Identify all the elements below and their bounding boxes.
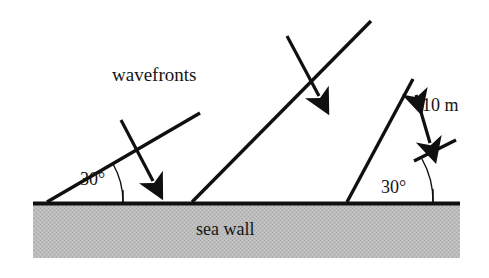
angle-arc-right xyxy=(422,159,433,202)
wavefront-lines xyxy=(47,21,456,202)
propagation-arrows xyxy=(121,36,319,181)
angle-label-left: 30° xyxy=(80,169,105,190)
wavefronts-label: wavefronts xyxy=(112,64,196,86)
angle-label-right: 30° xyxy=(381,177,406,198)
propagation-arrow-left xyxy=(121,120,153,181)
wave-diagram-figure: wavefronts sea wall 10 m 30° 30° xyxy=(0,0,489,278)
angle-arc-left xyxy=(113,164,123,202)
spacing-label: 10 m xyxy=(422,95,459,116)
wavefront-line-4 xyxy=(414,140,456,161)
wavefront-line-2 xyxy=(192,21,371,202)
propagation-arrow-right xyxy=(287,36,319,96)
sea-wall-label: sea wall xyxy=(196,219,254,240)
